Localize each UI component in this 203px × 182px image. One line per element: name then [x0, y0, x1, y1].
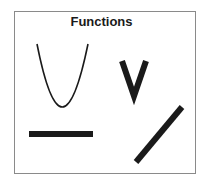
functions-diagram [0, 0, 203, 182]
v-shape-icon [122, 61, 146, 96]
horizontal-bar-icon [29, 131, 93, 137]
parabola-icon [37, 44, 88, 107]
diagonal-line-icon [136, 107, 182, 162]
